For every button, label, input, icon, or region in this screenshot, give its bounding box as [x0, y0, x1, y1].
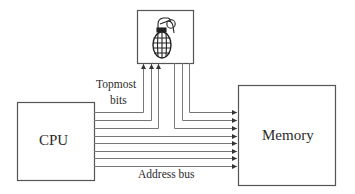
diagram-svg [0, 0, 355, 194]
memory-label: Memory [262, 128, 314, 143]
topmost-bits-label-line1: Topmost [96, 79, 136, 91]
cpu-label: CPU [39, 133, 68, 148]
bomb-output-lines [175, 63, 238, 129]
address-bus-lines [94, 137, 237, 167]
address-bus-label: Address bus [138, 169, 195, 181]
topmost-bits-label-line2: bits [110, 95, 127, 107]
